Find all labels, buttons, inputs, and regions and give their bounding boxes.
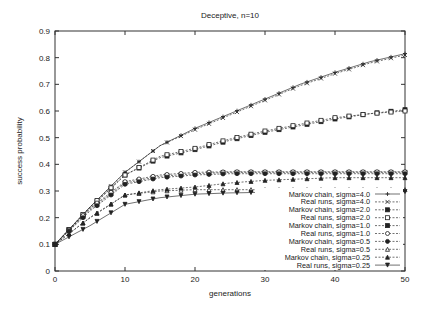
legend: Markov chain, sigma=4.0Real runs, sigma=… bbox=[255, 188, 403, 270]
x-axis-label: generations bbox=[209, 289, 251, 298]
x-tick-label: 40 bbox=[331, 275, 340, 284]
x-tick-label: 20 bbox=[191, 275, 200, 284]
y-tick-label: 0.6 bbox=[39, 107, 51, 116]
y-axis-label: success probability bbox=[15, 117, 24, 185]
x-tick-label: 50 bbox=[401, 275, 410, 284]
y-tick-label: 0.4 bbox=[39, 160, 51, 169]
y-tick-label: 0.8 bbox=[39, 54, 51, 63]
y-tick-label: 0 bbox=[46, 267, 51, 276]
y-tick-label: 0.3 bbox=[39, 187, 51, 196]
y-tick-label: 0.1 bbox=[39, 240, 51, 249]
y-tick-label: 0.5 bbox=[39, 134, 51, 143]
y-tick-label: 0.2 bbox=[39, 214, 51, 223]
chart-title: Deceptive, n=10 bbox=[201, 11, 260, 20]
x-tick-label: 10 bbox=[121, 275, 130, 284]
y-tick-label: 0.9 bbox=[39, 27, 51, 36]
x-tick-label: 30 bbox=[261, 275, 270, 284]
line-chart: Deceptive, n=10 success probability gene… bbox=[0, 0, 427, 309]
legend-label: Real runs, sigma=0.25 bbox=[297, 261, 370, 270]
y-tick-label: 0.7 bbox=[39, 80, 51, 89]
x-tick-label: 0 bbox=[53, 275, 58, 284]
